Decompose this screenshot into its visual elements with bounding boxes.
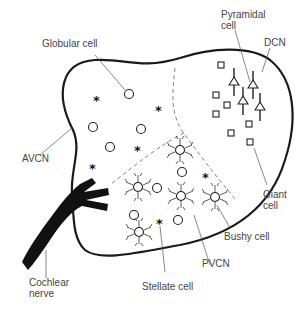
svg-text:*: *	[93, 93, 100, 108]
svg-text:*: *	[89, 161, 96, 176]
pyramidal-pointer	[235, 30, 250, 82]
giant-cell-label: Giant	[263, 189, 287, 200]
svg-text:*: *	[156, 216, 163, 231]
avcn-label: AVCN	[22, 153, 49, 164]
bushy-cell-pointer	[217, 205, 230, 228]
dcn-label: DCN	[264, 37, 286, 48]
bushy-cell-label: Bushy cell	[224, 231, 270, 242]
globular-cell-label: Globular cell	[42, 38, 98, 49]
cochlear-nerve-label-2: nerve	[29, 288, 54, 299]
pvcn-boundary	[110, 133, 184, 185]
cochlear-nucleus-diagram: * * * * * *	[0, 0, 302, 309]
svg-text:*: *	[134, 143, 141, 158]
giant-cell-label-2: cell	[263, 200, 278, 211]
svg-text:*: *	[202, 170, 209, 185]
svg-text:*: *	[155, 103, 162, 118]
pyramidal-cells	[229, 68, 265, 121]
avcn-pointer	[40, 128, 72, 155]
cochlear-nerve-label: Cochlear	[29, 277, 70, 288]
pvcn-label: PVCN	[202, 258, 230, 269]
stellate-cell-label: Stellate cell	[142, 281, 193, 292]
cochlear-nerve	[22, 178, 109, 270]
pyramidal-cell-label: Pyramidal	[221, 9, 265, 20]
pyramidal-cell-label-2: cell	[221, 20, 236, 31]
giant-cell-pointer	[254, 148, 267, 185]
